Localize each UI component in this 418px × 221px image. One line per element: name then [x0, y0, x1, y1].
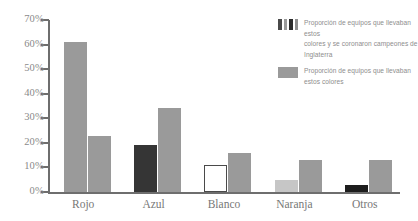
legend-line: colores y se coronaron campeones de — [304, 39, 418, 50]
legend-line: estos colores — [304, 77, 418, 88]
bar-group — [48, 20, 118, 192]
bar — [64, 42, 87, 192]
bar — [158, 108, 181, 192]
bar — [204, 165, 227, 192]
x-axis-label: Azul — [118, 198, 188, 210]
legend-entry-all-teams: Proporción de equipos que llevaban estos… — [278, 66, 418, 87]
bar-chart: 0%10%20%30%40%50%60%70% RojoAzulBlancoNa… — [0, 0, 418, 221]
legend-swatch-striped-icon — [278, 19, 298, 30]
y-axis-tick-label: 30% — [0, 112, 44, 123]
bar-group — [189, 20, 259, 192]
x-axis-label: Naranja — [259, 198, 329, 210]
bar — [275, 180, 298, 192]
legend-swatch-solid-icon — [278, 67, 298, 78]
legend-line: Proporción de equipos que llevaban estos — [304, 18, 418, 39]
y-axis-tick-label: 60% — [0, 39, 44, 50]
legend-label-champions: Proporción de equipos que llevaban estos… — [304, 18, 418, 60]
x-axis-label: Rojo — [48, 198, 118, 210]
y-axis-tick-label: 50% — [0, 63, 44, 74]
bar — [369, 160, 392, 192]
legend-line: Proporción de equipos que llevaban — [304, 66, 418, 77]
bar — [299, 160, 322, 192]
y-axis-tick-label: 20% — [0, 137, 44, 148]
bar-group — [118, 20, 188, 192]
chart-legend: Proporción de equipos que llevaban estos… — [278, 18, 418, 94]
bar — [134, 145, 157, 192]
y-axis-tick-label: 10% — [0, 161, 44, 172]
x-axis-label: Blanco — [189, 198, 259, 210]
bar — [88, 136, 111, 193]
y-axis-tick-label: 40% — [0, 88, 44, 99]
y-axis-tick-label: 70% — [0, 14, 44, 25]
bar — [345, 185, 368, 192]
x-axis-line — [48, 192, 400, 194]
x-axis-label: Otros — [330, 198, 400, 210]
legend-entry-champions: Proporción de equipos que llevaban estos… — [278, 18, 418, 60]
legend-line: Inglaterra — [304, 50, 418, 61]
bar — [228, 153, 251, 192]
legend-label-all-teams: Proporción de equipos que llevaban estos… — [304, 66, 418, 87]
y-axis-tick-label: 0% — [0, 186, 44, 197]
